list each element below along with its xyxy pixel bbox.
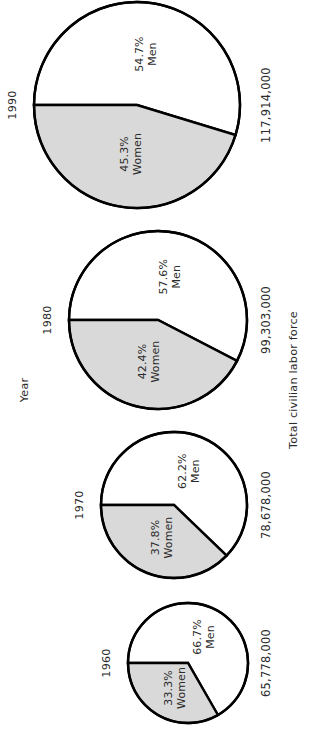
slice-label-women-1990-name: Women [131,133,144,175]
year-label-1980: 1980 [41,305,54,334]
slice-label-women-1990: 45.3%Women [118,133,144,175]
pie-1970: 62.2%Men37.8%Women [101,432,247,578]
slice-label-men-1970-percent: 62.2% [176,453,189,488]
pie-series-svg: Year Total civilian labor force 54.7%Men… [0,0,314,735]
slice-label-men-1980-percent: 57.6% [157,259,170,294]
year-label-1990: 1990 [6,90,19,119]
slice-label-women-1970-percent: 37.8% [149,520,162,555]
pie-1990: 54.7%Men45.3%Women [34,2,240,208]
year-label-1960: 1960 [100,648,113,677]
slice-label-men-1960-name: Men [204,625,217,649]
total-label-1990: 117,914,000 [259,67,273,143]
slice-label-men-1990-percent: 54.7% [133,36,146,71]
slice-label-women-1960-name: Women [175,667,188,709]
axis-title-total: Total civilian labor force [287,311,300,450]
slice-label-women-1980-name: Women [149,341,162,383]
slice-label-men-1990-name: Men [146,42,159,66]
slice-label-women-1990-percent: 45.3% [118,136,131,171]
total-label-1980: 99,303,000 [259,286,273,354]
slice-label-men-1960-percent: 66.7% [191,619,204,654]
total-label-1960: 65,778,000 [259,629,273,697]
slice-label-women-1980: 42.4%Women [136,341,162,383]
slice-label-men-1980-name: Men [170,265,183,289]
axis-title-year: Year [18,378,31,404]
total-label-1970: 78,678,000 [259,471,273,539]
pie-chart-figure: Year Total civilian labor force 54.7%Men… [0,0,314,735]
slice-label-men-1970-name: Men [189,459,202,483]
slice-label-women-1970: 37.8%Women [149,517,175,559]
slice-label-women-1980-percent: 42.4% [136,344,149,379]
pie-1980: 57.6%Men42.4%Women [69,231,247,409]
year-label-1970: 1970 [73,490,86,519]
slice-label-women-1960-percent: 33.3% [162,670,175,705]
slice-label-women-1970-name: Women [162,517,175,559]
pie-1960: 66.7%Men33.3%Women [128,603,248,723]
slice-label-women-1960: 33.3%Women [162,667,188,709]
pies-group: 54.7%Men45.3%Women1990117,914,00057.6%Me… [6,2,273,723]
